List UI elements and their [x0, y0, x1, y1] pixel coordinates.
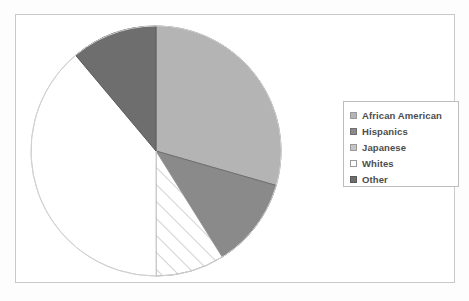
chart-legend: African American Hispanics Japanese Whit…: [343, 101, 459, 187]
legend-item-hispanics[interactable]: Hispanics: [350, 124, 458, 139]
pie-slice-group: [31, 26, 281, 276]
legend-swatch-other: [350, 176, 357, 183]
legend-swatch-whites: [350, 160, 357, 167]
legend-label-japanese: Japanese: [362, 142, 406, 153]
legend-item-japanese[interactable]: Japanese: [350, 140, 458, 155]
legend-swatch-african-american: [350, 112, 357, 119]
legend-label-whites: Whites: [362, 158, 394, 169]
legend-swatch-japanese: [350, 144, 357, 151]
pie-chart-svg: [28, 23, 284, 279]
legend-item-other[interactable]: Other: [350, 172, 458, 187]
legend-label-african-american: African American: [362, 110, 442, 121]
legend-item-african-american[interactable]: African American: [350, 108, 458, 123]
pie-chart: [28, 23, 284, 279]
legend-label-other: Other: [362, 174, 388, 185]
legend-swatch-hispanics: [350, 128, 357, 135]
legend-label-hispanics: Hispanics: [362, 126, 408, 137]
legend-item-whites[interactable]: Whites: [350, 156, 458, 171]
chart-frame: African American Hispanics Japanese Whit…: [15, 14, 455, 283]
